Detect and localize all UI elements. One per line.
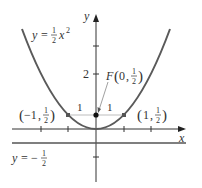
svg-text:F: F <box>105 69 114 83</box>
svg-text:y: y <box>31 28 38 42</box>
svg-text:(: ( <box>137 107 142 124</box>
svg-text:2: 2 <box>132 77 136 86</box>
directrix-label: y = − 1 2 <box>11 149 47 168</box>
focus-label: F ( 0 , 1 2 ) <box>105 67 143 86</box>
y-axis-arrow-icon <box>93 14 99 22</box>
svg-text:1: 1 <box>52 26 56 35</box>
svg-text:2: 2 <box>66 26 70 35</box>
svg-text:2: 2 <box>42 159 46 168</box>
svg-text:0: 0 <box>119 69 125 83</box>
svg-text:2: 2 <box>156 116 160 125</box>
svg-text:): ) <box>138 68 143 85</box>
parabola-diagram: y = 1 2 x 2 y x 2 F ( 0 , 1 2 ) 1 1 ( −1… <box>0 0 202 188</box>
svg-text:1: 1 <box>132 67 136 76</box>
y-tick-label: 2 <box>83 67 89 81</box>
curve-label: y = 1 2 x 2 <box>31 26 70 45</box>
svg-text:): ) <box>162 107 167 124</box>
svg-text:1: 1 <box>156 106 160 115</box>
left-point-label: ( −1 , 1 2 ) <box>19 106 55 125</box>
svg-text:): ) <box>50 107 55 124</box>
y-axis-label: y <box>83 9 90 23</box>
svg-text:1: 1 <box>44 106 48 115</box>
svg-text:,: , <box>38 108 41 122</box>
svg-text:y: y <box>11 151 18 165</box>
right-distance-label: 1 <box>107 101 113 113</box>
svg-text:2: 2 <box>44 116 48 125</box>
right-point-label: ( 1 , 1 2 ) <box>137 106 167 125</box>
left-point-marker <box>66 113 70 117</box>
x-axis-label: x <box>178 131 185 145</box>
left-distance-label: 1 <box>77 101 83 113</box>
focus-pointer-arrow-icon <box>98 107 102 113</box>
svg-text:,: , <box>126 69 129 83</box>
svg-text:−: − <box>31 151 38 165</box>
svg-text:=: = <box>21 151 28 165</box>
focus-point <box>93 112 98 117</box>
svg-text:1: 1 <box>42 149 46 158</box>
svg-text:x: x <box>58 28 65 42</box>
svg-text:=: = <box>41 28 48 42</box>
right-point-marker <box>122 113 126 117</box>
svg-text:1: 1 <box>143 108 149 122</box>
svg-text:−1: −1 <box>24 108 37 122</box>
svg-text:2: 2 <box>52 36 56 45</box>
svg-text:,: , <box>150 108 153 122</box>
